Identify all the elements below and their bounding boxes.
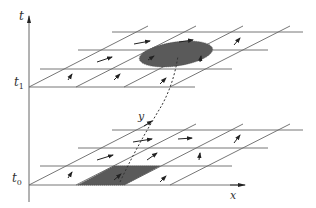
t1-label: t1	[14, 76, 24, 91]
y-axis-label: y	[138, 111, 144, 122]
lower-plane	[29, 124, 303, 185]
dashed-trajectory	[120, 56, 178, 182]
t0-label: t0	[12, 172, 22, 187]
t-axis-label: t	[19, 10, 24, 22]
x-axis-label: x	[230, 190, 236, 201]
space-time-diagram	[0, 0, 316, 208]
